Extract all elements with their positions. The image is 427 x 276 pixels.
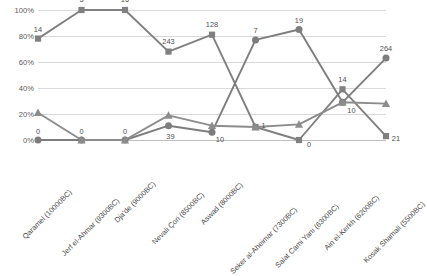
data-point-label: 14 — [34, 24, 42, 33]
x-axis-category-label: Aswad (8000BC) — [199, 181, 245, 227]
y-axis-tick-label: 100% — [15, 6, 34, 15]
data-point-square — [165, 49, 171, 55]
data-point-label: 5 — [79, 0, 83, 4]
y-axis-tick-label: 80% — [19, 32, 34, 41]
data-point-triangle — [34, 109, 42, 117]
data-point-circle — [209, 129, 216, 136]
y-axis-tick-labels: 100%80%60%40%20%0% — [0, 10, 34, 140]
y-axis-tick-label: 60% — [19, 58, 34, 67]
data-point-square — [35, 36, 41, 42]
data-point-square — [339, 86, 345, 92]
data-point-label: 128 — [206, 19, 219, 28]
footer-caption — [6, 247, 386, 254]
y-axis-tick-label: 20% — [19, 110, 34, 119]
x-axis-category-label: Qaramel (10000BC) — [21, 188, 74, 241]
data-point-label: 14 — [338, 75, 346, 84]
data-point-label: 0 — [36, 127, 40, 136]
data-point-label: 39 — [166, 131, 174, 140]
data-point-circle — [35, 137, 42, 144]
series-line-square — [38, 10, 386, 140]
data-point-square — [78, 7, 84, 13]
data-point-square — [296, 137, 302, 143]
data-point-label: 10 — [347, 106, 355, 115]
data-point-circle — [383, 55, 390, 62]
data-point-circle — [165, 122, 172, 129]
series-lines-layer — [38, 10, 386, 140]
data-point-square — [122, 7, 128, 13]
data-point-square — [383, 133, 389, 139]
plot-area: 14516243128101421000391071910264 — [38, 10, 386, 140]
data-point-label: 0 — [307, 140, 311, 149]
data-point-label: 21 — [392, 134, 400, 143]
data-point-circle — [252, 36, 259, 43]
x-axis-category-label: Nevali Çori (8500BC) — [150, 190, 206, 246]
data-point-square — [209, 32, 215, 38]
data-point-label: 19 — [295, 15, 303, 24]
data-point-label: 264 — [380, 44, 393, 53]
x-axis-category-label: Ain el-Kerkh (6200BC) — [322, 193, 381, 252]
data-point-label: 7 — [253, 25, 257, 34]
data-point-label: 0 — [79, 127, 83, 136]
y-axis-tick-label: 40% — [19, 84, 34, 93]
data-point-label: 16 — [121, 0, 129, 4]
data-point-label: 0 — [123, 127, 127, 136]
data-point-triangle — [164, 111, 172, 119]
data-point-label: 1 — [261, 121, 265, 130]
y-axis-tick-label: 0% — [23, 136, 34, 145]
x-axis-category-label: Kosak Shamali (5500BC) — [362, 200, 427, 265]
data-point-label: 10 — [216, 135, 224, 144]
data-point-label: 243 — [162, 36, 175, 45]
data-point-circle — [296, 26, 303, 33]
x-axis-category-label: Seker al-Aheimar (7300BC) — [228, 205, 299, 276]
